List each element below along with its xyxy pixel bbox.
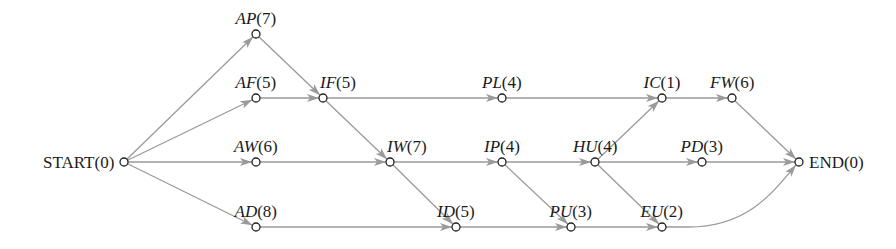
node-ip — [498, 158, 506, 166]
activity-code: AP — [236, 9, 257, 28]
node-fw — [728, 94, 736, 102]
node-id — [452, 223, 460, 231]
node-label-fw: FW(6) — [710, 74, 754, 91]
node-label-end: END(0) — [809, 154, 864, 171]
node-label-ic: IC(1) — [644, 74, 681, 91]
node-end — [795, 158, 803, 166]
activity-duration: (3) — [703, 137, 723, 156]
node-label-iw: IW(7) — [387, 138, 427, 155]
activity-code: END — [809, 153, 844, 172]
node-label-id: ID(5) — [437, 203, 475, 220]
activity-code: IC — [644, 73, 661, 92]
activity-duration: (4) — [598, 137, 618, 156]
node-ic — [658, 94, 666, 102]
activity-code: AW — [234, 137, 258, 156]
edge-eu-to-end — [666, 165, 796, 227]
activity-duration: (7) — [256, 9, 276, 28]
activity-duration: (4) — [502, 73, 522, 92]
edge-fw-to-end — [735, 101, 796, 159]
activity-code: FW — [710, 73, 735, 92]
node-pu — [567, 223, 575, 231]
activity-duration: (7) — [407, 137, 427, 156]
node-hu — [591, 158, 599, 166]
activity-code: PU — [550, 202, 573, 221]
node-eu — [658, 223, 666, 231]
edge-if-to-iw — [326, 101, 387, 159]
activity-duration: (5) — [336, 73, 356, 92]
activity-code: ID — [437, 202, 455, 221]
node-label-aw: AW(6) — [234, 138, 278, 155]
node-label-eu: EU(2) — [641, 203, 684, 220]
node-label-hu: HU(4) — [573, 138, 617, 155]
node-label-pd: PD(3) — [681, 138, 724, 155]
activity-code: AF — [236, 73, 257, 92]
node-pl — [498, 94, 506, 102]
activity-duration: (0) — [844, 153, 864, 172]
activity-duration: (4) — [500, 137, 520, 156]
activity-code: IF — [320, 73, 336, 92]
node-iw — [386, 158, 394, 166]
node-label-ip: IP(4) — [484, 138, 520, 155]
activity-duration: (8) — [257, 202, 277, 221]
node-pd — [698, 158, 706, 166]
node-ap — [252, 30, 260, 38]
activity-duration: (5) — [455, 202, 475, 221]
nodes-layer — [120, 30, 803, 231]
node-aw — [252, 158, 260, 166]
activity-code: PL — [482, 73, 502, 92]
node-af — [252, 94, 260, 102]
activity-duration: (5) — [256, 73, 276, 92]
node-label-af: AF(5) — [236, 74, 277, 91]
activity-code: EU — [641, 202, 664, 221]
node-label-if: IF(5) — [320, 74, 356, 91]
activity-code: HU — [573, 137, 598, 156]
node-ad — [252, 223, 260, 231]
activity-duration: (2) — [663, 202, 683, 221]
node-if — [319, 94, 327, 102]
node-label-start: START(0) — [43, 154, 114, 171]
node-label-pl: PL(4) — [482, 74, 522, 91]
activity-duration: (1) — [661, 73, 681, 92]
activity-duration: (0) — [94, 153, 114, 172]
activity-duration: (6) — [735, 73, 755, 92]
node-label-ad: AD(8) — [235, 203, 278, 220]
node-label-ap: AP(7) — [236, 10, 277, 27]
activity-code: IW — [387, 137, 407, 156]
node-start — [120, 158, 128, 166]
activity-duration: (3) — [572, 202, 592, 221]
edges-layer — [127, 37, 796, 227]
activity-code: START — [43, 153, 94, 172]
activity-code: IP — [484, 137, 500, 156]
node-label-pu: PU(3) — [550, 203, 593, 220]
activity-duration: (6) — [258, 137, 278, 156]
activity-code: AD — [235, 202, 258, 221]
activity-code: PD — [681, 137, 704, 156]
